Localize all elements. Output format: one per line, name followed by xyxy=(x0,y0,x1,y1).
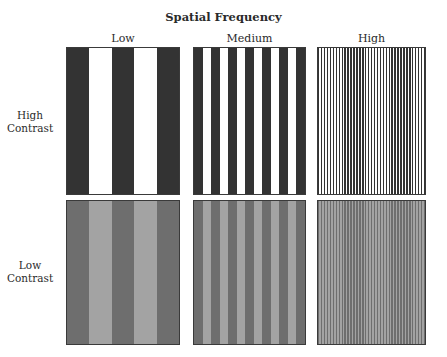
row-label-high-contrast: High Contrast xyxy=(0,109,60,135)
grating-stripe xyxy=(89,201,111,344)
grating-stripe xyxy=(296,201,305,344)
grating-stripe xyxy=(203,201,212,344)
column-label-low: Low xyxy=(66,32,180,45)
grating-stripe xyxy=(288,48,297,194)
column-label-high: High xyxy=(317,32,426,45)
grating-stripe xyxy=(228,48,237,194)
row-label-line1: Low xyxy=(0,259,60,272)
grating-stripe xyxy=(424,48,425,194)
grating-stripe xyxy=(296,48,305,194)
grating-stripe xyxy=(67,48,89,194)
grating-stripe xyxy=(203,48,212,194)
grating-stripe xyxy=(112,48,134,194)
figure-title: Spatial Frequency xyxy=(0,10,447,24)
grating-stripe xyxy=(424,201,425,344)
grating-low-contrast-low-frequency xyxy=(66,200,180,345)
grating-stripe xyxy=(211,48,220,194)
grating-stripe xyxy=(67,201,89,344)
row-label-line1: High xyxy=(0,109,60,122)
grating-stripe xyxy=(237,201,246,344)
grating-stripe xyxy=(254,48,263,194)
row-label-line2: Contrast xyxy=(0,272,60,285)
row-label-low-contrast: Low Contrast xyxy=(0,259,60,285)
grating-stripe xyxy=(194,201,203,344)
grating-stripe xyxy=(112,201,134,344)
grating-stripe xyxy=(279,48,288,194)
grating-low-contrast-medium-frequency xyxy=(193,200,306,345)
column-label-medium: Medium xyxy=(193,32,306,45)
grating-stripe xyxy=(237,48,246,194)
grating-stripe xyxy=(134,201,156,344)
grating-low-contrast-high-frequency xyxy=(317,200,426,345)
grating-stripe xyxy=(134,48,156,194)
grating-stripe xyxy=(271,201,280,344)
grating-stripe xyxy=(245,48,254,194)
grating-stripe xyxy=(288,201,297,344)
grating-stripe xyxy=(211,201,220,344)
grating-high-contrast-low-frequency xyxy=(66,47,180,195)
grating-stripe xyxy=(220,201,229,344)
grating-stripe xyxy=(220,48,229,194)
grating-stripe xyxy=(262,201,271,344)
grating-high-contrast-medium-frequency xyxy=(193,47,306,195)
grating-stripe xyxy=(271,48,280,194)
grating-stripe xyxy=(262,48,271,194)
row-label-line2: Contrast xyxy=(0,122,60,135)
grating-stripe xyxy=(157,48,179,194)
grating-stripe xyxy=(245,201,254,344)
grating-stripe xyxy=(89,48,111,194)
grating-stripe xyxy=(279,201,288,344)
grating-stripe xyxy=(254,201,263,344)
grating-stripe xyxy=(194,48,203,194)
grating-stripe xyxy=(157,201,179,344)
grating-stripe xyxy=(228,201,237,344)
grating-high-contrast-high-frequency xyxy=(317,47,426,195)
